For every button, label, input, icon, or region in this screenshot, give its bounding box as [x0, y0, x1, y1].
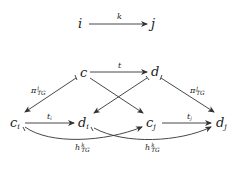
node-c: c	[80, 66, 87, 79]
label-h-di-dj: hkTG	[145, 143, 160, 153]
commutative-diagram: i j c d ci di cj dj k t πiTG πjTG ti tj …	[0, 0, 242, 171]
label-t-i: ti	[47, 113, 52, 122]
arrow-d-di	[94, 78, 147, 113]
arrow-pi-j	[161, 78, 214, 112]
label-pi-i: πiTG	[31, 86, 46, 96]
node-i: i	[78, 17, 82, 30]
node-c-i: ci	[10, 116, 20, 133]
label-t: t	[118, 62, 121, 70]
label-h-ci-cj: hkTG	[75, 143, 90, 153]
node-d-j: dj	[216, 116, 227, 133]
node-d: d	[151, 65, 159, 78]
label-k: k	[117, 13, 122, 21]
node-d-i: di	[78, 116, 89, 133]
node-j: j	[151, 17, 155, 30]
label-t-j: tj	[187, 113, 192, 122]
node-c-j: cj	[146, 116, 156, 133]
arrow-c-cj	[90, 78, 143, 113]
label-pi-j: πjTG	[190, 86, 205, 96]
